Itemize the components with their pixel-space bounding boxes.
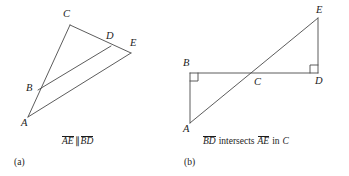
caption-b-segment-BD: BD (203, 136, 216, 147)
point-label-b-D: D (315, 76, 323, 87)
right-angle-at-B (190, 73, 198, 81)
point-label-b-E: E (316, 5, 322, 16)
segment-b-AE (190, 18, 318, 123)
right-angle-at-D (310, 65, 318, 73)
panel-b-caption: BDintersectsAEinC (203, 136, 289, 147)
point-label-b-C: C (254, 77, 261, 88)
point-label-b-B: B (183, 58, 189, 69)
geometry-figure: A B C D E AE∥BD (a) A B C D E BDintersec… (0, 0, 349, 176)
caption-b-tail: in (269, 136, 282, 146)
caption-b-relation: intersects (216, 136, 258, 146)
caption-b-point: C (283, 136, 289, 146)
point-label-b-A: A (183, 124, 189, 135)
panel-b-drawing (0, 0, 349, 176)
caption-b-segment-AE: AE (258, 136, 270, 147)
panel-b-sublabel: (b) (184, 157, 195, 167)
